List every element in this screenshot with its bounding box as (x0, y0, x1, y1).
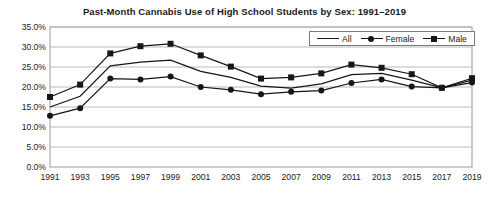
data-point-marker (47, 113, 53, 119)
data-point-marker (379, 76, 385, 82)
data-point-marker (409, 84, 415, 90)
legend-entry-female[interactable]: Female (361, 34, 415, 44)
chart-container: Past-Month Cannabis Use of High School S… (0, 0, 489, 209)
legend-entry-male[interactable]: Male (423, 34, 467, 44)
data-point-marker (137, 43, 143, 49)
data-point-marker (228, 87, 234, 93)
x-axis-tick-label: 2013 (372, 172, 391, 182)
data-point-marker (318, 70, 324, 76)
data-point-marker (258, 91, 264, 97)
data-point-marker (318, 88, 324, 94)
x-axis-tick-label: 2007 (282, 172, 301, 182)
data-point-marker (77, 82, 83, 88)
data-point-marker (288, 89, 294, 95)
x-axis-tick-label: 2015 (402, 172, 421, 182)
data-point-marker (198, 52, 204, 58)
data-point-marker (439, 85, 445, 91)
data-point-marker (379, 65, 385, 71)
data-point-marker (348, 80, 354, 86)
legend-swatch-female-icon (361, 34, 383, 43)
x-axis-tick-label: 1991 (40, 172, 59, 182)
data-point-marker (137, 76, 143, 82)
legend-swatch-all-icon (317, 34, 339, 43)
data-point-marker (469, 75, 475, 81)
x-axis-tick-label: 2017 (432, 172, 451, 182)
legend-label: All (342, 34, 352, 44)
x-axis-tick-label: 2001 (191, 172, 210, 182)
data-point-marker (107, 50, 113, 56)
legend-label: Male (448, 34, 467, 44)
x-axis-tick-label: 2009 (312, 172, 331, 182)
x-axis-tick-label: 2003 (221, 172, 240, 182)
x-axis-tick-label: 1995 (101, 172, 120, 182)
legend-label: Female (386, 34, 415, 44)
data-point-marker (348, 62, 354, 68)
legend-swatch-male-icon (423, 34, 445, 43)
x-axis-tick-label: 1997 (131, 172, 150, 182)
data-point-marker (168, 41, 174, 47)
data-point-marker (409, 71, 415, 77)
data-point-marker (288, 74, 294, 80)
data-point-marker (47, 94, 53, 100)
legend-entry-all[interactable]: All (317, 34, 352, 44)
data-point-marker (168, 74, 174, 80)
x-axis-tick-label: 1993 (71, 172, 90, 182)
data-point-marker (228, 64, 234, 70)
data-point-marker (258, 76, 264, 82)
chart-legend: AllFemaleMale (309, 31, 475, 46)
x-axis-tick-label: 2005 (251, 172, 270, 182)
data-point-marker (77, 105, 83, 111)
data-point-marker (107, 76, 113, 82)
x-axis-tick-label: 2019 (462, 172, 481, 182)
data-point-marker (198, 84, 204, 90)
x-axis-tick-label: 2011 (342, 172, 360, 182)
x-axis-tick-label: 1999 (161, 172, 180, 182)
